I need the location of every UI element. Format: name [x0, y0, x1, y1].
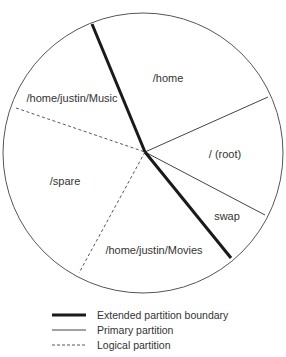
extended-boundary-bottom: [145, 152, 231, 258]
label-root: / (root): [209, 148, 241, 160]
label-movies: /home/justin/Movies: [105, 244, 203, 256]
label-home: /home: [153, 72, 184, 84]
legend-label-primary: Primary partition: [97, 324, 174, 336]
partition-diagram: /home / (root) swap /home/justin/Movies …: [0, 0, 286, 357]
primary-boundary-upper: [145, 97, 268, 152]
logical-boundary-left: [16, 108, 145, 152]
label-swap: swap: [214, 210, 240, 222]
legend-label-extended: Extended partition boundary: [97, 309, 229, 321]
label-music: /home/justin/Music: [26, 92, 118, 104]
legend-label-logical: Logical partition: [97, 339, 171, 351]
legend: Extended partition boundary Primary part…: [52, 309, 229, 351]
extended-boundary-top: [92, 24, 145, 152]
primary-boundary-lower: [145, 152, 265, 215]
label-spare: /spare: [50, 175, 81, 187]
